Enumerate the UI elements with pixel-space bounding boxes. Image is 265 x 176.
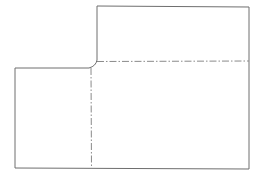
technical-drawing [0,0,265,176]
vertical-centerline [91,68,92,169]
part-outline [15,6,249,169]
horizontal-centerline [97,61,249,62]
